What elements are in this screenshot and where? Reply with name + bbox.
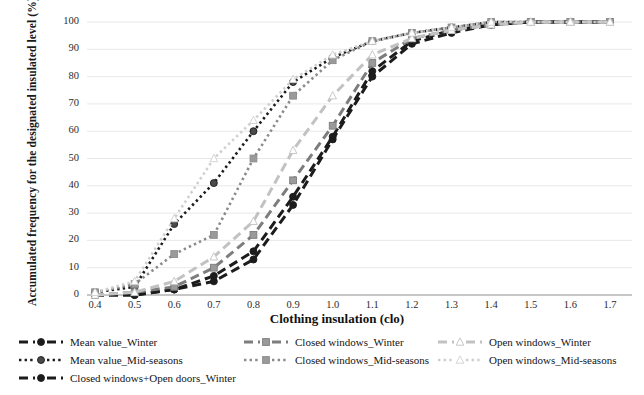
legend-label: Closed windows_Winter — [295, 336, 404, 348]
legend-swatch — [243, 354, 289, 366]
x-tick-label: 1.2 — [392, 299, 432, 310]
data-point-marker — [210, 272, 217, 279]
x-tick-label: 0.4 — [75, 299, 115, 310]
data-point-marker — [290, 92, 297, 99]
y-tick-label: 50 — [49, 152, 79, 163]
x-tick-label: 1.7 — [590, 299, 630, 310]
data-point-marker — [289, 146, 297, 153]
y-tick-label: 80 — [49, 70, 79, 81]
x-tick-label: 0.7 — [194, 299, 234, 310]
data-point-marker — [250, 232, 257, 239]
legend-item[interactable]: Mean value_Mid-seasons — [18, 354, 183, 366]
legend-item[interactable]: Closed windows_Winter — [243, 336, 404, 348]
data-point-marker — [250, 256, 257, 263]
data-point-marker — [210, 264, 217, 271]
data-point-marker — [369, 60, 376, 67]
legend-swatch — [437, 336, 483, 348]
y-tick-label: 10 — [49, 261, 79, 272]
data-point-marker — [369, 51, 377, 58]
y-tick-label: 90 — [49, 42, 79, 53]
data-point-marker — [210, 232, 217, 239]
x-tick-label: 1.1 — [352, 299, 392, 310]
legend-label: Open windows_Winter — [489, 336, 591, 348]
legend-label: Closed windows_Mid-seasons — [295, 354, 429, 366]
x-axis-label-wrap: Clothing insulation (clo) — [0, 311, 644, 327]
y-tick-label: 70 — [49, 97, 79, 108]
legend-item[interactable]: Open windows_Winter — [437, 336, 591, 348]
x-tick-label: 0.6 — [154, 299, 194, 310]
x-axis-label: Clothing insulation (clo) — [240, 311, 404, 327]
data-point-marker — [250, 116, 258, 123]
legend-swatch — [18, 336, 64, 348]
legend-label: Closed windows+Open doors_Winter — [70, 372, 236, 384]
legend-label: Mean value_Mid-seasons — [70, 354, 183, 366]
data-point-marker — [171, 251, 178, 258]
legend-item[interactable]: Closed windows_Mid-seasons — [243, 354, 429, 366]
x-tick-label: 0.8 — [233, 299, 273, 310]
plot-area — [0, 0, 644, 330]
data-point-marker — [329, 92, 337, 99]
data-point-marker — [250, 248, 257, 255]
legend-swatch — [437, 354, 483, 366]
data-point-marker — [290, 177, 297, 184]
x-tick-label: 0.9 — [273, 299, 313, 310]
y-tick-label: 60 — [49, 124, 79, 135]
y-tick-label: 40 — [49, 179, 79, 190]
legend-swatch — [243, 336, 289, 348]
y-tick-label: 100 — [49, 15, 79, 26]
chart-figure: Accumulated frequency for the designated… — [0, 0, 644, 395]
data-point-marker — [250, 155, 257, 162]
y-tick-label: 0 — [49, 288, 79, 299]
data-point-marker — [329, 133, 336, 140]
legend-item[interactable]: Open windows_Mid-seasons — [437, 354, 616, 366]
legend-label: Open windows_Mid-seasons — [489, 354, 616, 366]
y-tick-label: 20 — [49, 233, 79, 244]
legend-swatch — [18, 372, 64, 384]
x-tick-label: 1.5 — [511, 299, 551, 310]
legend-item[interactable]: Closed windows+Open doors_Winter — [18, 372, 236, 384]
chart-legend: Mean value_WinterMean value_Mid-seasonsC… — [0, 333, 644, 395]
data-point-marker — [329, 122, 336, 129]
y-tick-label: 30 — [49, 206, 79, 217]
x-tick-label: 1.3 — [432, 299, 472, 310]
data-point-marker — [210, 180, 217, 187]
x-tick-label: 0.5 — [115, 299, 155, 310]
legend-label: Mean value_Winter — [70, 336, 157, 348]
x-tick-label: 1.6 — [550, 299, 590, 310]
x-tick-label: 1.4 — [471, 299, 511, 310]
x-tick-label: 1.0 — [313, 299, 353, 310]
legend-item[interactable]: Mean value_Winter — [18, 336, 157, 348]
legend-swatch — [18, 354, 64, 366]
data-point-marker — [250, 128, 257, 135]
data-point-marker — [290, 193, 297, 200]
